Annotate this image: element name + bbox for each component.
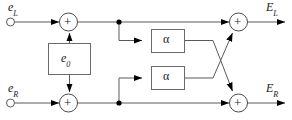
label-input-right-sub: R [13,90,18,99]
label-center-block-sub: 0 [66,60,70,69]
label-input-left-sub: L [13,9,18,18]
adder-symbol-top-left: + [64,15,71,28]
label-center-block: e0 [61,52,70,68]
label-output-right: ER [266,82,278,98]
input-terminal-right [7,99,15,107]
label-gain-top: α [163,33,169,45]
block-diagram-svg [0,0,292,120]
wire-tap-bottom [119,78,142,103]
label-output-left-sub: L [273,9,278,18]
adder-symbol-bottom-left: + [64,96,71,109]
label-input-left: eL [8,1,18,17]
adder-symbol-bottom-right: + [234,96,241,109]
junction-dot-top [116,19,121,24]
wire-tap-top [119,22,142,41]
label-output-right-sub: R [273,90,278,99]
label-output-left: EL [266,1,278,17]
adder-symbol-top-right: + [234,15,241,28]
label-gain-bottom: α [163,70,169,82]
wire-cross-top-to-bottom [184,41,233,92]
junction-dot-bottom [116,100,121,105]
diagram-canvas: eL eR EL ER e0 α α + + + + [0,0,292,120]
input-terminal-left [7,18,15,26]
label-input-right: eR [8,82,18,98]
